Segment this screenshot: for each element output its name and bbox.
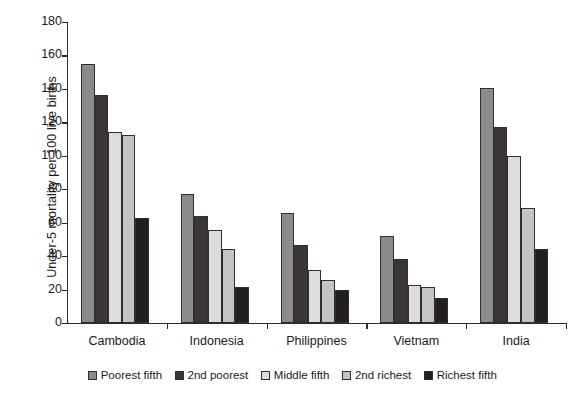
y-axis-tick-mark (62, 122, 67, 123)
bar-vietnam-2nd-poorest (394, 259, 408, 323)
y-axis-line (67, 22, 68, 324)
bar-cambodia-richest-fifth (135, 218, 149, 323)
x-axis-tick-mark (466, 323, 467, 329)
y-axis-tick-label: 20 (2, 283, 62, 296)
bar-philippines-2nd-poorest (294, 245, 308, 323)
y-axis-tick-mark (62, 189, 67, 190)
bar-india-2nd-poorest (494, 127, 508, 323)
y-axis-tick-label: 180 (2, 15, 62, 28)
bar-cambodia-middle-fifth (108, 132, 122, 323)
plot-area (67, 22, 566, 323)
legend-label: Poorest fifth (101, 369, 162, 381)
bar-philippines-richest-fifth (335, 290, 349, 323)
bar-india-2nd-richest (521, 208, 535, 323)
x-axis-category-label: Cambodia (67, 334, 167, 348)
chart-legend: Poorest fifth2nd poorestMiddle fifth2nd … (0, 369, 585, 381)
y-axis-tick-label: 160 (2, 48, 62, 61)
bar-philippines-2nd-richest (321, 280, 335, 323)
y-axis-tick-mark (62, 223, 67, 224)
legend-item: 2nd poorest (175, 369, 248, 381)
x-axis-tick-mark (366, 323, 367, 329)
bar-indonesia-2nd-poorest (194, 216, 208, 323)
bar-indonesia-poorest-fifth (181, 194, 195, 323)
legend-label: Richest fifth (437, 369, 497, 381)
bar-vietnam-richest-fifth (435, 298, 449, 323)
y-axis-tick-mark (62, 22, 67, 23)
bar-cambodia-2nd-richest (122, 135, 136, 323)
bar-vietnam-poorest-fifth (380, 236, 394, 323)
x-axis-tick-mark (267, 323, 268, 329)
x-axis-category-labels: CambodiaIndonesiaPhilippinesVietnamIndia (67, 334, 566, 354)
y-axis-tick-label: 120 (2, 115, 62, 128)
y-axis-tick-mark (62, 55, 67, 56)
legend-swatch-icon (175, 371, 184, 380)
x-axis-category-label: Vietnam (366, 334, 466, 348)
legend-label: 2nd poorest (188, 369, 249, 381)
legend-label: Middle fifth (274, 369, 330, 381)
bar-india-richest-fifth (535, 249, 549, 323)
y-axis-tick-label: 0 (2, 316, 62, 329)
y-axis-tick-label: 140 (2, 82, 62, 95)
y-axis-tick-label: 60 (2, 216, 62, 229)
x-axis-tick-mark (566, 323, 567, 329)
bar-cambodia-2nd-poorest (95, 95, 109, 323)
bar-india-poorest-fifth (480, 88, 494, 323)
y-axis-tick-mark (62, 323, 67, 324)
y-axis-tick-label: 80 (2, 182, 62, 195)
legend-item: 2nd richest (342, 369, 411, 381)
bar-philippines-middle-fifth (308, 270, 322, 323)
y-axis-tick-labels: 020406080100120140160180 (0, 22, 62, 323)
legend-swatch-icon (261, 371, 270, 380)
y-axis-tick-label: 100 (2, 149, 62, 162)
bar-vietnam-2nd-richest (421, 287, 435, 323)
legend-swatch-icon (88, 371, 97, 380)
bar-indonesia-middle-fifth (208, 230, 222, 323)
bar-chart: Under-5 mortality per 100 live births 02… (0, 0, 585, 405)
legend-swatch-icon (424, 371, 433, 380)
bar-india-middle-fifth (507, 156, 521, 323)
bar-indonesia-2nd-richest (222, 249, 236, 323)
bar-vietnam-middle-fifth (408, 285, 422, 323)
x-axis-line (67, 323, 566, 324)
legend-item: Middle fifth (261, 369, 329, 381)
y-axis-tick-mark (62, 89, 67, 90)
x-axis-category-label: India (466, 334, 566, 348)
y-axis-tick-mark (62, 156, 67, 157)
y-axis-tick-label: 40 (2, 249, 62, 262)
y-axis-tick-mark (62, 290, 67, 291)
legend-swatch-icon (342, 371, 351, 380)
x-axis-category-label: Indonesia (167, 334, 267, 348)
legend-label: 2nd richest (355, 369, 411, 381)
y-axis-tick-mark (62, 256, 67, 257)
x-axis-category-label: Philippines (267, 334, 367, 348)
x-axis-tick-mark (167, 323, 168, 329)
legend-item: Poorest fifth (88, 369, 162, 381)
legend-item: Richest fifth (424, 369, 497, 381)
bar-cambodia-poorest-fifth (81, 64, 95, 323)
bar-indonesia-richest-fifth (235, 287, 249, 323)
bar-philippines-poorest-fifth (281, 213, 295, 323)
